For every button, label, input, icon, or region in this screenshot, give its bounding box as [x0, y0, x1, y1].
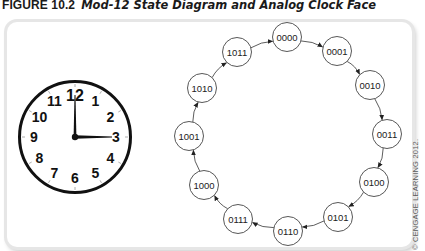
transition-arrow-0100-to-0101: [349, 192, 364, 206]
transition-arrow-0011-to-0100: [378, 148, 383, 168]
state-label: 0000: [276, 32, 297, 43]
clock-numeral-6: 6: [71, 170, 79, 186]
state-nodes: 0000000100100011010001010110011110001001…: [175, 23, 402, 246]
transition-arrow-0110-to-0111: [253, 223, 274, 228]
state-label: 1011: [227, 47, 247, 58]
clock-numeral-9: 9: [30, 129, 38, 145]
state-node-1011: 1011: [223, 38, 252, 67]
state-node-0011: 0011: [373, 120, 402, 149]
clock-numeral-11: 11: [47, 93, 62, 109]
clock-center: [72, 134, 78, 140]
state-label: 0010: [359, 80, 380, 91]
state-node-1010: 1010: [188, 74, 217, 103]
state-label: 0101: [327, 212, 348, 223]
state-node-1001: 1001: [175, 122, 204, 151]
clock-numeral-4: 4: [107, 150, 115, 166]
clock-numeral-1: 1: [92, 93, 100, 109]
copyright-notice: © CENGAGE LEARNING 2012.: [411, 139, 420, 250]
transition-arrow-0010-to-0011: [375, 99, 382, 120]
transition-arrow-0000-to-0001: [301, 41, 323, 47]
state-node-0111: 0111: [224, 205, 253, 234]
transition-arrow-1011-to-0000: [251, 41, 273, 48]
clock-numeral-7: 7: [51, 165, 59, 181]
transition-arrow-1010-to-1011: [212, 63, 226, 78]
state-label: 0110: [278, 226, 298, 237]
state-node-0110: 0110: [274, 217, 303, 246]
transition-arrow-1001-to-1010: [193, 102, 198, 122]
state-transitions: [193, 41, 383, 228]
state-node-0001: 0001: [323, 37, 352, 66]
clock-numeral-3: 3: [112, 129, 120, 145]
state-node-0010: 0010: [356, 71, 385, 100]
transition-arrow-0001-to-0010: [347, 61, 359, 74]
state-label: 1010: [191, 83, 212, 94]
state-node-0000: 0000: [273, 23, 302, 52]
state-node-0101: 0101: [324, 203, 353, 232]
transition-arrow-1000-to-1001: [193, 150, 199, 171]
state-label: 0111: [228, 214, 248, 225]
figure-graphics: 121234567891011 000000010010001101000101…: [0, 0, 425, 251]
clock-numeral-10: 10: [32, 109, 48, 125]
clock-numeral-2: 2: [107, 109, 115, 125]
state-node-1000: 1000: [190, 171, 219, 200]
state-label: 0100: [363, 177, 384, 188]
transition-arrow-0111-to-1000: [215, 196, 228, 209]
state-node-0100: 0100: [360, 168, 389, 197]
state-label: 1001: [178, 131, 199, 142]
clock-numeral-8: 8: [36, 150, 44, 166]
state-label: 0001: [326, 46, 347, 57]
analog-clock: 121234567891011: [20, 82, 131, 193]
transition-arrow-0101-to-0110: [302, 221, 324, 227]
state-label: 0011: [377, 129, 397, 140]
state-label: 1000: [193, 180, 214, 191]
clock-numeral-5: 5: [92, 165, 100, 181]
